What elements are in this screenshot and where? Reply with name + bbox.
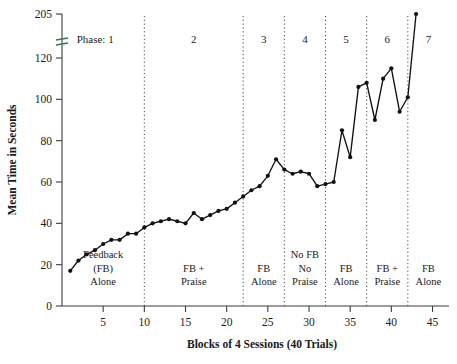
data-point [414, 12, 418, 16]
data-point [397, 110, 401, 114]
x-tick-label: 40 [386, 316, 398, 328]
phase-caption-line: Praise [181, 276, 207, 287]
phase-number-label: 5 [343, 33, 349, 45]
x-tick-label: 45 [427, 316, 439, 328]
data-point [68, 269, 72, 273]
data-point [208, 213, 212, 217]
phase-lead-label: Phase: 1 [77, 33, 114, 45]
phase-caption-line: No [298, 263, 311, 274]
y-tick-label: 100 [35, 93, 53, 105]
x-tick-label: 30 [303, 316, 315, 328]
data-point [85, 252, 89, 256]
data-point [340, 128, 344, 132]
data-point [389, 66, 393, 70]
data-point [356, 85, 360, 89]
phase-caption-line: Alone [333, 276, 359, 287]
data-point [241, 194, 245, 198]
phase-caption-line: Alone [416, 276, 442, 287]
data-point [307, 172, 311, 176]
y-axis-title: Mean Time in Seconds [6, 104, 18, 216]
data-point [183, 221, 187, 225]
phase-caption-line: FB [257, 263, 270, 274]
x-tick-label: 10 [139, 316, 151, 328]
data-point [192, 211, 196, 215]
y-tick-label: 40 [41, 217, 53, 229]
data-point [249, 188, 253, 192]
data-point [365, 81, 369, 85]
phase-caption-line: FB + [377, 263, 398, 274]
data-point [282, 168, 286, 172]
y-tick-label: 0 [46, 300, 52, 312]
x-tick-label: 25 [262, 316, 274, 328]
data-point [225, 207, 229, 211]
phase-caption-line: No FB [291, 249, 319, 260]
phase-caption-line: Feedback [83, 249, 124, 260]
data-point [101, 242, 105, 246]
data-point [200, 217, 204, 221]
y-tick-label: 205 [35, 8, 53, 20]
phase-number-label: 2 [191, 33, 197, 45]
phase-caption-line: FB [422, 263, 435, 274]
x-axis-title: Blocks of 4 Sessions (40 Trials) [187, 338, 337, 351]
chart-figure: Phase: 1234567 Feedback(FB)AloneFB +Prai… [0, 0, 457, 364]
data-point [126, 232, 130, 236]
phase-number-label: 4 [302, 33, 308, 45]
data-point [216, 209, 220, 213]
phase-caption-line: Alone [90, 276, 116, 287]
data-point [233, 201, 237, 205]
data-point [134, 232, 138, 236]
data-point [76, 258, 80, 262]
phase-number-label: 6 [384, 33, 390, 45]
data-point [118, 238, 122, 242]
x-tick-label: 35 [344, 316, 356, 328]
phase-caption-line: FB [340, 263, 353, 274]
y-tick-label: 20 [41, 259, 53, 271]
y-tick-label: 120 [35, 52, 53, 64]
y-tick-label: 60 [41, 176, 53, 188]
phase-number-label: 7 [426, 33, 432, 45]
data-point [167, 217, 171, 221]
data-point [266, 174, 270, 178]
phase-number-label: 3 [261, 33, 267, 45]
data-point [315, 184, 319, 188]
data-point [323, 182, 327, 186]
data-point [348, 155, 352, 159]
data-point [373, 118, 377, 122]
data-point [332, 180, 336, 184]
x-tick-label: 5 [100, 316, 106, 328]
data-point [274, 157, 278, 161]
data-point [381, 77, 385, 81]
data-point [299, 170, 303, 174]
data-point [258, 184, 262, 188]
data-point [175, 219, 179, 223]
data-point [142, 225, 146, 229]
phase-caption-line: Alone [251, 276, 277, 287]
phase-caption-line: Praise [374, 276, 400, 287]
data-point [159, 219, 163, 223]
phase-caption-line: FB + [183, 263, 204, 274]
data-point [406, 95, 410, 99]
phase-caption-line: (FB) [93, 263, 113, 275]
data-point [290, 172, 294, 176]
x-tick-label: 15 [180, 316, 192, 328]
y-tick-label: 80 [41, 135, 53, 147]
data-point [93, 248, 97, 252]
data-point [109, 238, 113, 242]
line-chart: Phase: 1234567 Feedback(FB)AloneFB +Prai… [0, 0, 457, 364]
phase-caption-line: Praise [292, 276, 318, 287]
chart-background [0, 0, 457, 364]
x-tick-label: 20 [221, 316, 233, 328]
data-point [150, 221, 154, 225]
